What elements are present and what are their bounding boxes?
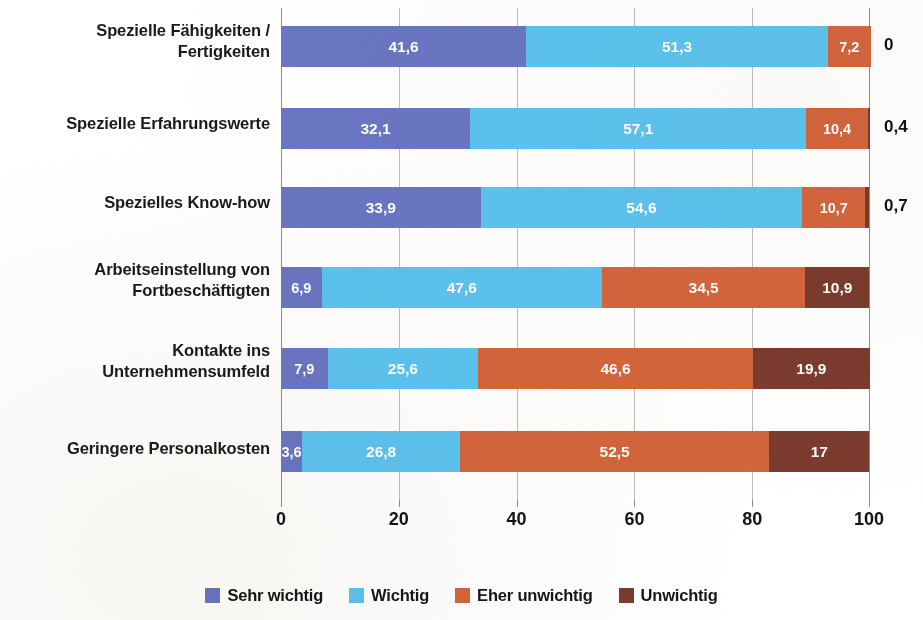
- category-label-4-line-1: Unternehmensumfeld: [12, 361, 270, 382]
- gridline-100: [869, 8, 870, 500]
- bar-row-2: 33,9 54,6 10,7: [281, 187, 869, 228]
- segment-5-unwichtig: 17: [769, 431, 869, 472]
- segment-2-unwichtig: [865, 187, 869, 228]
- legend-label-sehr-wichtig: Sehr wichtig: [227, 586, 323, 605]
- xtick-mark-60: [634, 500, 635, 507]
- segment-1-sehr-wichtig: 32,1: [281, 108, 470, 149]
- bar-row-4: 7,9 25,6 46,6 19,9: [281, 348, 870, 389]
- category-label-2-line-0: Spezielles Know-how: [12, 192, 270, 213]
- xtick-label-0: 0: [276, 509, 286, 530]
- segment-3-sehr-wichtig: 6,9: [281, 267, 322, 308]
- category-label-0-line-1: Fertigkeiten: [12, 41, 270, 62]
- legend-swatch-icon-sehr-wichtig: [205, 588, 220, 603]
- category-label-2: Spezielles Know-how: [12, 192, 270, 213]
- xtick-mark-80: [752, 500, 753, 507]
- bar-row-1: 32,1 57,1 10,4: [281, 108, 870, 149]
- segment-4-eher-unwichtig: 46,6: [478, 348, 752, 389]
- segment-4-wichtig: 25,6: [328, 348, 479, 389]
- outside-label-1: 0,4: [884, 117, 908, 137]
- gridline-60: [634, 8, 635, 500]
- xtick-mark-0: [281, 500, 282, 507]
- segment-0-wichtig: 51,3: [526, 26, 828, 67]
- legend-label-unwichtig: Unwichtig: [641, 586, 718, 605]
- outside-label-0: 0: [884, 35, 893, 55]
- legend-item-wichtig: Wichtig: [349, 586, 429, 605]
- legend-swatch-icon-wichtig: [349, 588, 364, 603]
- xtick-label-20: 20: [389, 509, 409, 530]
- category-label-5-line-0: Geringere Personalkosten: [12, 438, 270, 459]
- gridline-20: [399, 8, 400, 500]
- bar-row-0: 41,6 51,3 7,2: [281, 26, 871, 67]
- category-label-3-line-1: Fortbeschäftigten: [12, 280, 270, 301]
- segment-1-unwichtig: [868, 108, 870, 149]
- outside-label-2: 0,7: [884, 196, 908, 216]
- segment-2-sehr-wichtig: 33,9: [281, 187, 481, 228]
- bar-row-5: 3,6 26,8 52,5 17: [281, 431, 869, 472]
- xtick-label-100: 100: [854, 509, 884, 530]
- category-label-5: Geringere Personalkosten: [12, 438, 270, 459]
- xtick-label-80: 80: [742, 509, 762, 530]
- segment-2-eher-unwichtig: 10,7: [802, 187, 865, 228]
- category-label-3: Arbeitseinstellung von Fortbeschäftigten: [12, 259, 270, 301]
- xtick-mark-100: [869, 500, 870, 507]
- gridline-40: [517, 8, 518, 500]
- segment-0-eher-unwichtig: 7,2: [828, 26, 870, 67]
- category-label-4-line-0: Kontakte ins: [12, 340, 270, 361]
- chart-legend: Sehr wichtig Wichtig Eher unwichtig Unwi…: [0, 586, 923, 605]
- segment-1-wichtig: 57,1: [470, 108, 806, 149]
- segment-4-unwichtig: 19,9: [753, 348, 870, 389]
- xtick-mark-40: [517, 500, 518, 507]
- category-label-0-line-0: Spezielle Fähigkeiten /: [12, 20, 270, 41]
- xtick-label-40: 40: [507, 509, 527, 530]
- plot-area: [281, 8, 870, 500]
- segment-3-wichtig: 47,6: [322, 267, 602, 308]
- segment-3-eher-unwichtig: 34,5: [602, 267, 805, 308]
- xtick-label-60: 60: [624, 509, 644, 530]
- legend-swatch-icon-unwichtig: [619, 588, 634, 603]
- xtick-mark-20: [399, 500, 400, 507]
- category-label-3-line-0: Arbeitseinstellung von: [12, 259, 270, 280]
- legend-item-sehr-wichtig: Sehr wichtig: [205, 586, 323, 605]
- segment-5-sehr-wichtig: 3,6: [281, 431, 302, 472]
- y-axis-line: [281, 8, 282, 500]
- category-label-4: Kontakte ins Unternehmensumfeld: [12, 340, 270, 382]
- segment-0-sehr-wichtig: 41,6: [281, 26, 526, 67]
- gridline-80: [752, 8, 753, 500]
- legend-label-wichtig: Wichtig: [371, 586, 429, 605]
- segment-3-unwichtig: 10,9: [805, 267, 869, 308]
- segment-2-wichtig: 54,6: [481, 187, 803, 228]
- segment-1-eher-unwichtig: 10,4: [806, 108, 867, 149]
- legend-item-eher-unwichtig: Eher unwichtig: [455, 586, 592, 605]
- legend-item-unwichtig: Unwichtig: [619, 586, 718, 605]
- segment-4-sehr-wichtig: 7,9: [281, 348, 328, 389]
- category-label-1: Spezielle Erfahrungswerte: [12, 113, 270, 134]
- stacked-bar-chart: Spezielle Fähigkeiten / Fertigkeiten Spe…: [0, 0, 923, 620]
- legend-swatch-icon-eher-unwichtig: [455, 588, 470, 603]
- category-label-0: Spezielle Fähigkeiten / Fertigkeiten: [12, 20, 270, 62]
- bar-row-3: 6,9 47,6 34,5 10,9: [281, 267, 869, 308]
- segment-5-wichtig: 26,8: [302, 431, 460, 472]
- category-label-1-line-0: Spezielle Erfahrungswerte: [12, 113, 270, 134]
- legend-label-eher-unwichtig: Eher unwichtig: [477, 586, 592, 605]
- segment-5-eher-unwichtig: 52,5: [460, 431, 769, 472]
